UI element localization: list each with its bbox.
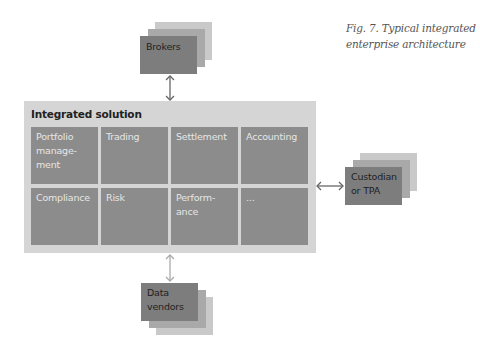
module-performance: Perform- ance: [171, 188, 238, 245]
caption-line-2: enterprise architecture: [346, 36, 476, 52]
data-vendors-label: Data vendors: [147, 286, 184, 314]
brokers-connector-arrow: [164, 75, 176, 101]
data-vendors-connector-arrow: [164, 254, 176, 282]
module-risk: Risk: [101, 188, 168, 245]
module-more: ...: [241, 188, 308, 245]
module-compliance: Compliance: [31, 188, 98, 245]
module-settlement: Settlement: [171, 127, 238, 184]
custodian-label: Custodian or TPA: [351, 170, 397, 198]
custodian-connector-arrow: [316, 180, 344, 192]
module-portfolio-management: Portfolio manage- ment: [31, 127, 98, 184]
module-accounting: Accounting: [241, 127, 308, 184]
integrated-solution-box: Integrated solution Portfolio manage- me…: [24, 101, 316, 253]
brokers-label: Brokers: [146, 40, 181, 54]
figure-caption: Fig. 7. Typical integrated enterprise ar…: [346, 20, 476, 52]
caption-line-1: Fig. 7. Typical integrated: [346, 20, 476, 36]
integrated-solution-title: Integrated solution: [31, 108, 142, 120]
module-trading: Trading: [101, 127, 168, 184]
